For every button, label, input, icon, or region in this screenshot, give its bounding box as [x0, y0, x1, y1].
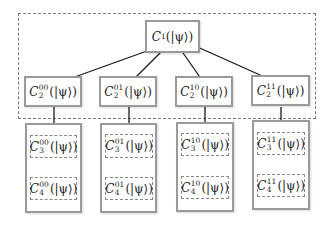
- node-c3-10: C103(|ψ⟩): [181, 133, 229, 156]
- indices: 004: [39, 181, 49, 197]
- symbol: C: [180, 85, 189, 99]
- subscript: 2: [39, 92, 49, 100]
- indices: 113: [267, 136, 277, 152]
- subscript: 4: [115, 189, 125, 197]
- node-c4-01: C014(|ψ⟩): [105, 177, 153, 200]
- indices: 014: [115, 181, 125, 197]
- symbol: C: [105, 182, 114, 196]
- argument: (|ψ⟩): [201, 138, 229, 152]
- subscript: 3: [191, 145, 201, 153]
- argument: (|ψ⟩): [201, 181, 229, 195]
- subscript: 4: [267, 186, 277, 194]
- symbol: C: [181, 138, 190, 152]
- subscript: 4: [191, 188, 201, 196]
- argument: (|ψ⟩): [277, 84, 305, 98]
- symbol: C: [30, 140, 39, 154]
- node-c1: C1(|ψ⟩): [145, 20, 200, 53]
- node-c1-label: C1(|ψ⟩): [147, 22, 198, 51]
- symbol: C: [30, 182, 39, 196]
- symbol: C: [29, 85, 38, 99]
- node-c3-01: C013(|ψ⟩): [105, 134, 153, 158]
- node-c3-10-label: C103(|ψ⟩): [182, 134, 228, 155]
- node-c3-11: C113(|ψ⟩): [257, 132, 305, 155]
- node-c2-11: C112(|ψ⟩): [251, 75, 310, 106]
- indices: 102: [190, 84, 200, 100]
- node-c2-01: C012(|ψ⟩): [99, 76, 157, 107]
- node-c3-01-label: C013(|ψ⟩): [106, 135, 152, 157]
- argument: (|ψ⟩): [49, 85, 77, 99]
- symbol: C: [105, 139, 114, 153]
- indices: 112: [266, 83, 276, 99]
- argument: (|ψ⟩): [125, 139, 153, 153]
- node-c3-00-label: C003(|ψ⟩): [31, 136, 76, 157]
- node-c4-11: C114(|ψ⟩): [257, 174, 305, 197]
- node-c2-10: C102(|ψ⟩): [175, 76, 233, 107]
- argument: (|ψ⟩): [200, 85, 228, 99]
- symbol: C: [104, 85, 113, 99]
- indices: 103: [191, 137, 201, 153]
- symbol: C: [181, 181, 190, 195]
- node-c4-10-label: C104(|ψ⟩): [182, 177, 228, 198]
- symbol: C: [152, 30, 161, 44]
- indices: 114: [267, 178, 277, 194]
- node-c2-11-label: C112(|ψ⟩): [253, 77, 308, 104]
- symbol: C: [257, 179, 266, 193]
- indices: 104: [191, 180, 201, 196]
- node-c3-11-label: C113(|ψ⟩): [258, 133, 304, 154]
- node-c4-01-label: C014(|ψ⟩): [106, 178, 152, 199]
- indices: 013: [115, 138, 125, 154]
- symbol: C: [257, 84, 266, 98]
- indices: 003: [39, 139, 49, 155]
- indices: 002: [39, 84, 49, 100]
- subscript: 4: [39, 189, 49, 197]
- argument: (|ψ⟩): [277, 137, 305, 151]
- node-c2-01-label: C012(|ψ⟩): [101, 78, 155, 105]
- subscript: 3: [115, 146, 125, 154]
- node-c2-10-label: C102(|ψ⟩): [177, 78, 231, 105]
- node-c4-00-label: C004(|ψ⟩): [31, 178, 76, 199]
- argument: (|ψ⟩): [125, 182, 153, 196]
- node-c2-00-label: C002(|ψ⟩): [26, 78, 80, 105]
- node-c3-00: C003(|ψ⟩): [30, 135, 77, 158]
- subscript: 3: [39, 147, 49, 155]
- argument: (|ψ⟩): [166, 30, 194, 44]
- indices: 012: [114, 84, 124, 100]
- node-c4-00: C004(|ψ⟩): [30, 177, 77, 200]
- argument: (|ψ⟩): [277, 179, 305, 193]
- symbol: C: [257, 137, 266, 151]
- node-c2-00: C002(|ψ⟩): [24, 76, 82, 107]
- arrows: [54, 45, 281, 177]
- argument: (|ψ⟩): [50, 182, 78, 196]
- node-c4-11-label: C114(|ψ⟩): [258, 175, 304, 196]
- subscript: 2: [266, 91, 276, 99]
- subscript: 3: [267, 144, 277, 152]
- subscript: 2: [114, 92, 124, 100]
- argument: (|ψ⟩): [124, 85, 152, 99]
- node-c4-10: C104(|ψ⟩): [181, 176, 229, 199]
- subscript: 2: [190, 92, 200, 100]
- argument: (|ψ⟩): [50, 140, 78, 154]
